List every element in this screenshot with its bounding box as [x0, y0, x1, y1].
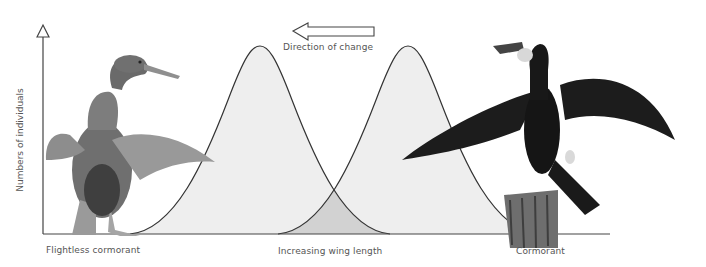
direction-of-change-label: Direction of change: [283, 42, 373, 52]
y-axis: [37, 25, 49, 234]
y-axis-arrow-icon: [37, 25, 49, 37]
x-axis-label: Increasing wing length: [278, 246, 382, 256]
y-axis-label: Numbers of individuals: [15, 88, 25, 192]
wing-length-distribution-diagram: Numbers of individuals Direction of chan…: [0, 0, 706, 267]
flightless-cormorant-label: Flightless cormorant: [46, 245, 140, 255]
direction-arrow-icon: [293, 23, 374, 40]
cormorant-label: Cormorant: [516, 246, 565, 256]
